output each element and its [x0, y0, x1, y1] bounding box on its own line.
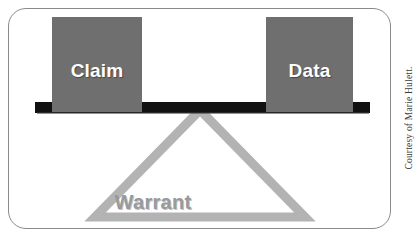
block-claim: Claim: [52, 17, 142, 112]
credit-text: Courtesy of Marie Hulett.: [404, 66, 414, 169]
balance-scale-diagram: Warrant Claim Data: [8, 8, 391, 229]
warrant-label: Warrant: [8, 191, 298, 214]
block-data: Data: [266, 17, 353, 112]
figure-canvas: Warrant Claim Data Courtesy of Marie Hul…: [0, 0, 418, 235]
block-claim-label: Claim: [71, 61, 124, 80]
balance-beam-shadow: [37, 112, 369, 114]
credit-line: Courtesy of Marie Hulett.: [401, 0, 417, 235]
block-data-label: Data: [289, 61, 331, 80]
